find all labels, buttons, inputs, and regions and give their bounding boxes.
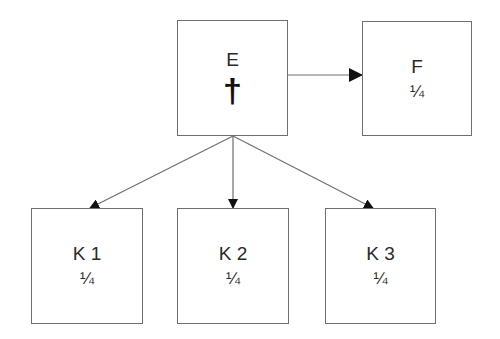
node-k2: K 2 ¼ [177,208,289,324]
node-k1: K 1 ¼ [31,208,143,324]
arrow-e-to-k1 [90,136,233,208]
node-e: E † [177,20,288,136]
arrow-e-to-k3 [233,136,373,208]
node-f: F ¼ [362,21,472,136]
node-k3: K 3 ¼ [325,208,436,324]
node-e-label: E [226,49,239,71]
node-f-share: ¼ [410,82,424,102]
node-k3-share: ¼ [373,269,387,289]
node-k1-label: K 1 [73,243,102,265]
node-k2-share: ¼ [226,269,240,289]
node-k2-label: K 2 [219,243,248,265]
dagger-icon: † [223,73,242,107]
node-k1-share: ¼ [80,269,94,289]
node-f-label: F [411,56,423,78]
node-k3-label: K 3 [366,243,395,265]
